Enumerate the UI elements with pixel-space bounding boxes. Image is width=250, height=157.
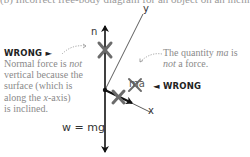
wrong-tag-right: ◄ WRONG: [153, 81, 201, 91]
normal-force-note: Normal force is not vertical because the…: [4, 58, 99, 114]
pointer-right-head-icon: [140, 59, 143, 63]
x-axis-label: x: [148, 105, 154, 116]
cross-out-ma-arrow-icon: [113, 91, 124, 103]
y-axis-label: y: [143, 3, 149, 14]
pointer-right-icon: [140, 54, 162, 62]
weight-label: w = mg: [62, 121, 105, 134]
origin-dot: [103, 88, 107, 92]
ma-label: ma: [129, 78, 145, 89]
ma-note: The quantity ma is not a force.: [163, 47, 250, 69]
wrong-tag-left: WRONG ►: [4, 48, 52, 58]
pointer-left-icon: [62, 46, 86, 54]
normal-force-label: n: [91, 26, 97, 37]
